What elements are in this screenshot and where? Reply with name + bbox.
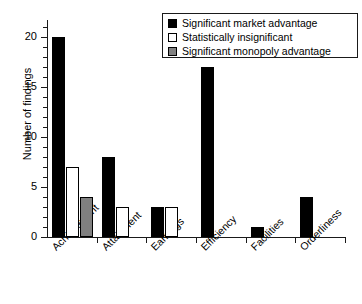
- legend-label: Significant market advantage: [182, 18, 317, 29]
- bar: [102, 157, 115, 237]
- legend-item: Significant monopoly advantage: [168, 45, 353, 58]
- y-tick-label: 10: [0, 131, 37, 142]
- bar: [52, 37, 65, 237]
- legend-label: Significant monopoly advantage: [182, 46, 331, 57]
- x-tick: [97, 238, 98, 243]
- bar: [251, 227, 264, 237]
- x-tick: [345, 238, 346, 243]
- bar: [165, 207, 178, 237]
- bar: [80, 197, 93, 237]
- x-tick: [196, 238, 197, 243]
- y-tick-major: [41, 237, 47, 238]
- x-tick: [146, 238, 147, 243]
- x-tick: [246, 238, 247, 243]
- legend-item: Statistically insignificant: [168, 31, 353, 44]
- black-square-swatch: [168, 19, 177, 28]
- legend: Significant market advantageStatisticall…: [162, 13, 358, 58]
- y-axis-title: Number of findings: [21, 39, 33, 189]
- y-tick-label: 0: [0, 231, 37, 242]
- y-tick-label: 5: [0, 181, 37, 192]
- bar: [300, 197, 313, 237]
- gray-square-swatch: [168, 47, 177, 56]
- y-tick-label: 15: [0, 81, 37, 92]
- y-tick-label: 20: [0, 31, 37, 42]
- legend-item: Significant market advantage: [168, 17, 353, 30]
- bar: [66, 167, 79, 237]
- bar: [201, 67, 214, 237]
- white-square-swatch: [168, 33, 177, 42]
- bar: [151, 207, 164, 237]
- bar-chart-figure: Number of findings 05101520 AchievementA…: [0, 0, 362, 304]
- legend-label: Statistically insignificant: [182, 32, 292, 43]
- x-tick: [295, 238, 296, 243]
- bar: [116, 207, 129, 237]
